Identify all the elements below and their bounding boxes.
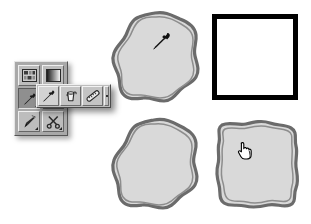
- flyout-item-eyedropper[interactable]: [38, 86, 59, 106]
- cursor-hand: [236, 141, 254, 161]
- cursor-eyedropper: [150, 30, 172, 52]
- tool-row: [17, 110, 65, 133]
- tool-cell-scissors[interactable]: [42, 111, 64, 132]
- tool-cell-gradient[interactable]: [42, 65, 64, 86]
- tool-cell-dagger[interactable]: [18, 111, 40, 132]
- shape-circle-top[interactable]: [110, 10, 202, 105]
- shape-square-top[interactable]: [212, 14, 298, 100]
- tool-cell-pattern-stamp[interactable]: [18, 65, 40, 86]
- pointing-hand-cursor-icon: [238, 143, 251, 160]
- square-outline: [217, 121, 298, 207]
- pattern-stamp-icon: [22, 69, 37, 82]
- square-interior: [219, 21, 292, 94]
- screenshot-stage: [0, 0, 311, 224]
- paint-bucket-icon: [63, 89, 78, 103]
- eyedropper-flyout-menu[interactable]: [36, 84, 111, 108]
- circle-outline: [113, 119, 197, 208]
- flyout-end-cap[interactable]: [104, 86, 109, 106]
- flyout-indicator-triangle: [59, 127, 62, 130]
- flyout-indicator-triangle: [35, 127, 38, 130]
- shape-square-bottom[interactable]: [212, 117, 302, 211]
- gradient-icon: [46, 69, 61, 82]
- eyedropper-cursor-icon: [153, 33, 170, 50]
- flyout-item-color-sampler[interactable]: [60, 86, 81, 106]
- ruler-icon: [85, 89, 101, 103]
- flyout-item-measure[interactable]: [82, 86, 103, 106]
- shape-circle-bottom[interactable]: [110, 116, 202, 212]
- eyedropper-icon: [41, 89, 56, 103]
